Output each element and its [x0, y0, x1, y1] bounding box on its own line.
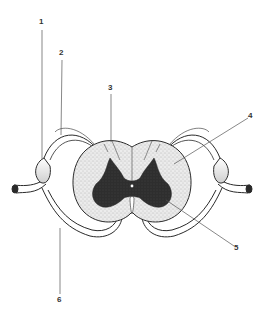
label-3: 3	[108, 84, 112, 92]
central-canal	[131, 185, 134, 188]
leader-line-4	[174, 118, 248, 164]
label-6: 6	[57, 296, 61, 304]
spinal-cord-diagram	[0, 0, 264, 324]
label-2: 2	[59, 49, 63, 57]
label-5: 5	[234, 244, 238, 252]
leader-line-5	[166, 200, 234, 246]
label-1: 1	[39, 18, 43, 26]
leader-line-2	[61, 60, 62, 135]
label-4: 4	[248, 112, 252, 120]
right-ganglion	[214, 158, 229, 183]
left-ganglion	[36, 158, 51, 183]
